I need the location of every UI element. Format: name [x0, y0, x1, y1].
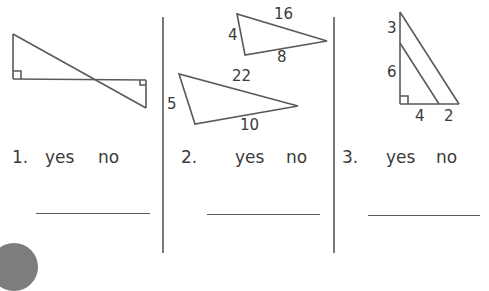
problem-1-yes[interactable]: yes	[45, 149, 74, 166]
side-label-22: 22	[232, 69, 251, 84]
problem-1-figure	[13, 34, 146, 108]
problem-2-number: 2.	[181, 149, 197, 166]
side-label-3: 3	[387, 21, 397, 36]
column-divider-1	[162, 17, 164, 253]
side-label-6: 6	[387, 65, 397, 80]
problem-1-number: 1.	[12, 149, 28, 166]
problem-2-no[interactable]: no	[286, 149, 307, 166]
right-angle-marker-left	[13, 71, 21, 79]
problem-2-answer-line[interactable]	[207, 214, 320, 215]
problem-3-answer-line[interactable]	[368, 215, 480, 216]
right-angle-marker	[400, 96, 408, 104]
problem-2-figures	[179, 14, 327, 124]
side-label-10: 10	[240, 118, 259, 133]
problem-1-no[interactable]: no	[98, 149, 119, 166]
problem-3-yes[interactable]: yes	[386, 149, 415, 166]
problem-3-number: 3.	[342, 149, 358, 166]
problem-3-figure	[400, 12, 459, 104]
problem-3-no[interactable]: no	[436, 149, 457, 166]
side-label-16: 16	[274, 7, 293, 22]
side-label-8: 8	[277, 50, 287, 65]
side-label-4: 4	[228, 28, 238, 43]
problem-2-yes[interactable]: yes	[235, 149, 264, 166]
problem-1-answer-line[interactable]	[36, 213, 150, 214]
side-label-5: 5	[167, 97, 177, 112]
column-divider-2	[333, 17, 335, 253]
side-label-2-base: 2	[444, 109, 454, 124]
side-label-4-base: 4	[415, 109, 425, 124]
